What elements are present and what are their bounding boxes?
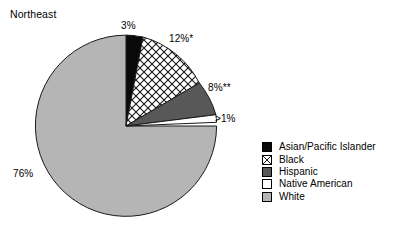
- legend-item-native-american[interactable]: Native American: [262, 178, 412, 190]
- legend-item-label: Black: [279, 155, 304, 165]
- pie-svg: [0, 0, 250, 234]
- chart-legend: Asian/Pacific Islander Black Hispanic Na…: [262, 141, 412, 203]
- legend-item-label: Hispanic: [279, 167, 318, 177]
- dark-gray-swatch-icon: [262, 167, 272, 177]
- pie-plot-area: [0, 0, 250, 234]
- pie-value-label-native-american: >1%: [215, 113, 236, 124]
- pie-value-label-hispanic: 8%**: [208, 82, 231, 93]
- pie-chart-figure: Northeast 3% 12%* 8%** >1% 76%: [0, 0, 416, 234]
- black-swatch-icon: [262, 142, 272, 152]
- legend-item-label: White: [279, 192, 305, 202]
- legend-item-white[interactable]: White: [262, 191, 412, 203]
- light-gray-swatch-icon: [262, 192, 272, 202]
- white-swatch-icon: [262, 179, 272, 189]
- legend-item-black[interactable]: Black: [262, 153, 412, 165]
- legend-item-label: Native American: [279, 179, 353, 189]
- pie-value-label-asian-pacific-islander: 3%: [121, 20, 136, 31]
- pie-value-label-black: 12%*: [169, 33, 193, 44]
- legend-item-label: Asian/Pacific Islander: [279, 142, 376, 152]
- pie-value-label-white: 76%: [13, 168, 33, 179]
- crosshatch-swatch-icon: [262, 155, 272, 165]
- legend-item-asian-pacific-islander[interactable]: Asian/Pacific Islander: [262, 141, 412, 153]
- legend-item-hispanic[interactable]: Hispanic: [262, 166, 412, 178]
